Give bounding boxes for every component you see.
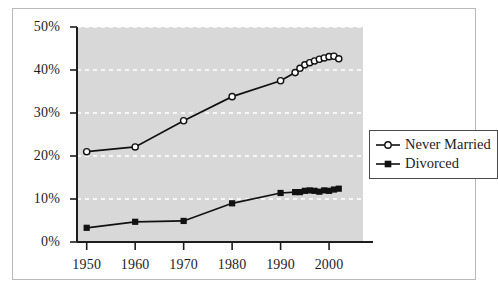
legend-label-divorced: Divorced xyxy=(405,156,459,171)
legend-label-never-married: Never Married xyxy=(405,137,491,152)
chart-legend: Never Married Divorced xyxy=(369,130,498,179)
x-tick-label: 2000 xyxy=(301,258,357,272)
legend-item-never-married: Never Married xyxy=(375,135,491,154)
legend-marker-open-circle-icon xyxy=(375,138,401,152)
legend-marker-filled-square-icon xyxy=(375,157,401,171)
legend-item-divorced: Divorced xyxy=(375,154,491,173)
